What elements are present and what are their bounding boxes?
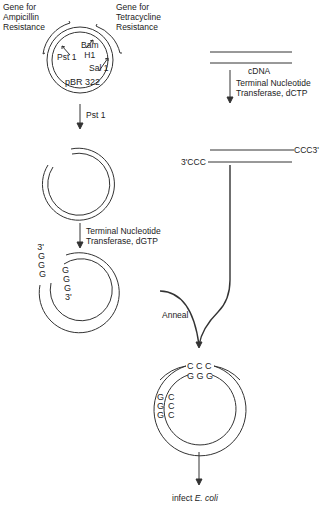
- g-tail-inner: G G G 3': [62, 266, 72, 302]
- bam-site-label: Bam H1: [81, 40, 98, 60]
- product-left-outer: G G G: [157, 393, 164, 420]
- cdna-end-top: CCC3': [294, 145, 319, 155]
- product-top-outer: C C C: [187, 362, 212, 371]
- infect-label: infect E. coli: [172, 493, 218, 503]
- arrow-infect: [196, 452, 202, 485]
- cdna-label: cDNA: [248, 66, 270, 76]
- pst-site-label: Pst 1: [57, 52, 76, 62]
- tet-gene-label: Gene for Tetracycline Resistance: [116, 2, 161, 32]
- arrow-pst1: [77, 104, 83, 129]
- arrow-dgtp: [77, 223, 83, 248]
- anneal-merge: [160, 165, 230, 348]
- product-left-inner: C C C: [168, 393, 175, 420]
- cdna-end-bottom: 3'CCC: [181, 157, 206, 167]
- amp-gene-arc: [43, 23, 70, 54]
- g-tail-outer: 3' G G G: [35, 243, 46, 279]
- linearized-plasmid: [42, 148, 114, 220]
- amp-gene-label: Gene for Ampicillin Resistance: [3, 2, 45, 32]
- anneal-label: Anneal: [162, 310, 188, 320]
- c-tailed-cdna: [208, 150, 294, 162]
- step-pst1-label: Pst 1: [86, 110, 105, 120]
- g-tailed-plasmid: [39, 253, 119, 333]
- plasmid-name: pBR 322: [65, 77, 100, 87]
- step-dctp-label: Terminal Nucleotide Transferase, dCTP: [236, 78, 311, 98]
- cdna-duplex: [210, 52, 292, 63]
- step-dgtp-label: Terminal Nucleotide Transferase, dGTP: [86, 226, 161, 246]
- sal-site-label: Sal 1: [89, 63, 108, 73]
- arrow-dctp: [227, 70, 233, 103]
- product-top-inner: G G G: [187, 372, 213, 381]
